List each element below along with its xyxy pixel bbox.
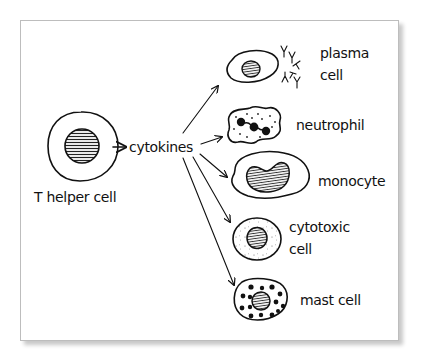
mast-cell-icon: [234, 279, 287, 320]
arrow-to-neutrophil: [201, 137, 222, 144]
t-helper-cell-icon: [48, 112, 118, 181]
cytokine-diagram: T helper cell cytokines plasma cell: [0, 0, 422, 359]
plasma-cell-label-line1: plasma: [320, 45, 369, 61]
arrow-to-monocyte: [200, 154, 227, 177]
cytotoxic-cell-label-line1: cytotoxic: [289, 219, 350, 235]
cytotoxic-cell-label-line2: cell: [289, 241, 312, 257]
monocyte-label: monocyte: [318, 173, 385, 189]
cytokine-arrows: [183, 86, 234, 285]
cytotoxic-cell-icon: [233, 218, 281, 260]
monocyte-icon: [232, 152, 309, 199]
mast-cell-label: mast cell: [300, 292, 361, 308]
plasma-cell-icon: [227, 51, 278, 83]
neutrophil-icon: [228, 107, 280, 144]
plasma-cell-label-line2: cell: [320, 67, 343, 83]
antibody-icon: [281, 46, 300, 88]
arrow-to-cytotoxic-cell: [193, 157, 230, 222]
arrow-to-plasma-cell: [183, 86, 218, 133]
t-helper-cell-label: T helper cell: [33, 189, 116, 205]
neutrophil-label: neutrophil: [296, 117, 364, 133]
cytokines-label: cytokines: [129, 139, 193, 155]
